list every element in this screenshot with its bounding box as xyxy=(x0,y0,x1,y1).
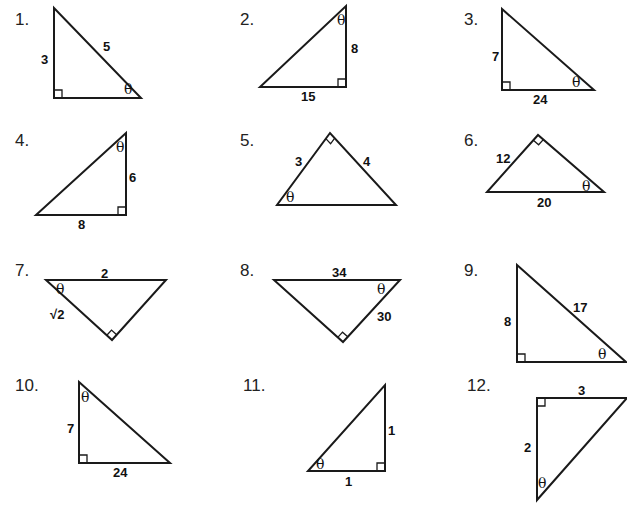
side-length-label: 1 xyxy=(345,474,352,489)
problem-number: 4. xyxy=(15,131,29,150)
problem-number: 2. xyxy=(240,10,254,29)
right-angle-marker xyxy=(338,332,348,337)
side-length-label: 24 xyxy=(113,465,128,480)
theta-angle-label: θ xyxy=(337,12,345,28)
problem-2: 2.815θ xyxy=(240,6,358,104)
problem-3: 3.724θ xyxy=(464,9,594,107)
problem-number: 11. xyxy=(243,376,265,395)
theta-angle-label: θ xyxy=(572,74,580,90)
side-length-label: 30 xyxy=(377,309,391,324)
theta-angle-label: θ xyxy=(582,178,590,194)
side-length-label: 3 xyxy=(41,52,48,67)
problem-10: 10.7θ24 xyxy=(15,376,170,480)
right-triangle xyxy=(517,265,626,362)
theta-angle-label: θ xyxy=(598,346,606,362)
side-length-label: 8 xyxy=(504,314,511,329)
triangle-worksheet: 1.35θ2.815θ3.724θ4.68θ5.34θ6.1220θ7.2θ√2… xyxy=(0,0,627,513)
right-angle-marker xyxy=(533,140,543,145)
problem-number: 6. xyxy=(464,131,478,150)
right-angle-marker xyxy=(377,463,385,471)
side-length-label: 1 xyxy=(388,423,395,438)
problem-5: 5.34θ xyxy=(240,131,396,205)
problem-8: 8.34θ30 xyxy=(240,261,400,342)
right-angle-marker xyxy=(79,455,87,463)
side-length-label: 20 xyxy=(537,195,551,210)
right-triangle xyxy=(36,133,126,215)
right-triangle xyxy=(79,382,170,463)
problem-1: 1.35θ xyxy=(15,8,141,98)
right-triangle xyxy=(260,6,346,87)
side-length-label: 3 xyxy=(578,383,585,398)
problem-11: 11.1θ1 xyxy=(243,376,395,489)
right-angle-marker xyxy=(502,82,510,90)
theta-angle-label: θ xyxy=(316,456,324,472)
right-angle-marker xyxy=(107,330,117,335)
right-triangle xyxy=(537,398,627,500)
problem-6: 6.1220θ xyxy=(464,131,604,210)
problem-number: 10. xyxy=(15,376,39,395)
side-length-label: 6 xyxy=(129,170,136,185)
problem-number: 3. xyxy=(464,10,478,29)
problem-12: 12.32θ xyxy=(467,376,627,500)
side-length-label: 4 xyxy=(363,154,371,169)
side-length-label: 8 xyxy=(351,41,358,56)
theta-angle-label: θ xyxy=(81,389,89,405)
right-angle-marker xyxy=(517,354,525,362)
problem-number: 5. xyxy=(240,131,254,150)
problem-number: 8. xyxy=(240,261,254,280)
side-length-label: 15 xyxy=(301,89,315,104)
side-length-label: 12 xyxy=(496,151,510,166)
right-triangle xyxy=(277,133,396,205)
side-length-label: 7 xyxy=(67,421,74,436)
theta-angle-label: θ xyxy=(377,281,385,297)
problem-4: 4.68θ xyxy=(15,131,136,232)
side-length-label: 34 xyxy=(332,265,347,280)
side-length-label: 5 xyxy=(103,39,110,54)
side-length-label: 8 xyxy=(78,217,85,232)
side-length-label: 2 xyxy=(101,266,108,281)
problem-number: 12. xyxy=(467,376,491,395)
side-length-label: 7 xyxy=(492,49,499,64)
theta-angle-label: θ xyxy=(124,81,132,97)
problem-9: 9.817θ xyxy=(464,261,626,362)
side-length-label: 2 xyxy=(524,440,531,455)
problem-number: 1. xyxy=(15,10,29,29)
right-angle-marker xyxy=(537,398,545,406)
problem-number: 9. xyxy=(464,261,478,280)
problem-7: 7.2θ√2 xyxy=(15,261,166,340)
right-angle-marker xyxy=(118,207,126,215)
theta-angle-label: θ xyxy=(116,139,124,155)
theta-angle-label: θ xyxy=(56,281,64,297)
theta-angle-label: θ xyxy=(286,189,294,205)
side-length-label: 3 xyxy=(295,154,302,169)
right-angle-marker xyxy=(54,90,62,98)
theta-angle-label: θ xyxy=(538,475,546,491)
side-length-label: 24 xyxy=(533,92,548,107)
side-length-label: √2 xyxy=(50,307,64,322)
problem-number: 7. xyxy=(15,261,29,280)
side-length-label: 17 xyxy=(573,300,587,315)
right-angle-marker xyxy=(326,138,335,144)
right-angle-marker xyxy=(338,79,346,87)
